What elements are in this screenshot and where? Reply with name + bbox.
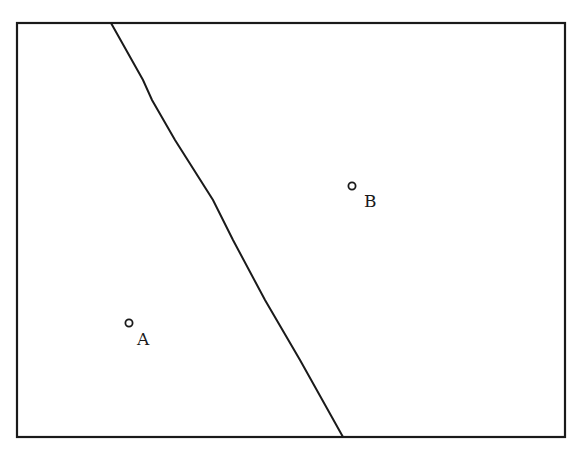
dividing-line	[111, 23, 343, 437]
point-a-marker	[125, 319, 132, 326]
region-frame	[17, 23, 565, 437]
point-b-label: B	[364, 191, 377, 211]
point-a: A	[125, 319, 150, 349]
point-b-marker	[348, 182, 355, 189]
diagram-canvas: A B	[0, 0, 580, 458]
point-a-label: A	[136, 329, 150, 349]
point-b: B	[348, 182, 376, 211]
